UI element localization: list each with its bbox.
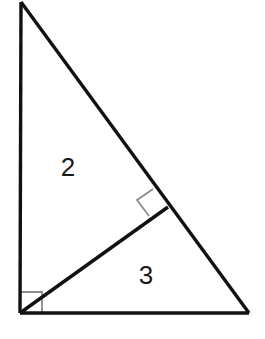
label-3: 3 — [139, 260, 153, 290]
figure-background — [0, 0, 265, 339]
label-2: 2 — [61, 152, 75, 182]
geometry-figure: 2 3 — [0, 0, 265, 339]
left-leg — [20, 2, 21, 313]
geometry-canvas: 2 3 — [0, 0, 265, 339]
